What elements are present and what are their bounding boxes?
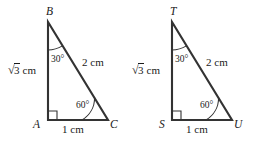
angle-label-u-60: 60° [200, 101, 213, 111]
angle-arc-t-30 [172, 46, 186, 50]
radical-expression-ab: √3 [7, 64, 20, 76]
side-label-ts-root3: √3cm [131, 64, 160, 76]
side-label-tu-2cm: 2 cm [206, 57, 228, 68]
angle-arc-b-30 [48, 46, 62, 50]
vertex-label-u: U [234, 119, 242, 131]
vertex-label-t: T [170, 6, 176, 18]
unit-label-ab: cm [23, 64, 36, 76]
unit-label-ts: cm [147, 64, 160, 76]
geometry-figure: B A C 30° 60° √3cm 2 cm 1 cm T S U 30° 6… [0, 0, 260, 141]
vertex-label-b: B [46, 6, 53, 18]
vertex-label-c: C [110, 119, 118, 131]
radical-expression-ts: √3 [131, 64, 144, 76]
angle-label-b-30: 30° [51, 55, 64, 65]
vertex-label-a: A [33, 119, 40, 131]
right-angle-mark-a [48, 111, 57, 120]
side-label-ac-1cm: 1 cm [62, 124, 84, 135]
radicand-ab: 3 [14, 63, 21, 76]
side-label-su-1cm: 1 cm [186, 124, 208, 135]
radicand-ts: 3 [138, 63, 145, 76]
angle-label-t-30: 30° [175, 55, 188, 65]
angle-label-c-60: 60° [76, 101, 89, 111]
side-label-bc-2cm: 2 cm [82, 57, 104, 68]
vertex-label-s: S [159, 119, 165, 131]
side-label-ab-root3: √3cm [7, 64, 36, 76]
right-angle-mark-s [172, 111, 181, 120]
